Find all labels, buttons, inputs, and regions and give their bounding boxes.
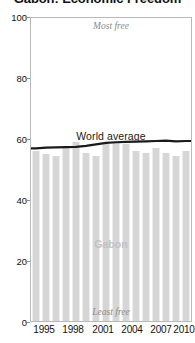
bar <box>112 142 119 321</box>
bar <box>152 148 159 321</box>
x-tick-label: 2007 <box>150 324 171 335</box>
bar <box>132 151 139 321</box>
y-axis: 100 80 60 40 20 0 <box>0 0 30 343</box>
x-tick-label: 2001 <box>92 324 113 335</box>
x-tick-label: 1995 <box>33 324 54 335</box>
most-free-annotation: Most free <box>31 21 191 31</box>
bar <box>32 151 39 321</box>
country-series-label: Gabon <box>31 238 191 250</box>
bar <box>122 144 129 321</box>
bars-layer <box>31 18 191 321</box>
least-free-annotation: Least free <box>31 307 191 317</box>
x-tick-label: 2004 <box>121 324 142 335</box>
bar <box>162 153 169 321</box>
plot-area: Most free Least free World average Gabon <box>30 17 192 322</box>
bar <box>72 142 79 321</box>
bar <box>182 151 189 321</box>
x-tick-label: 1998 <box>62 324 83 335</box>
bar <box>82 153 89 321</box>
x-axis: 1995 1998 2001 2004 2007 2010 <box>0 324 195 343</box>
bar <box>62 147 69 321</box>
y-tick-mark <box>25 322 30 323</box>
bar <box>142 153 149 321</box>
economic-freedom-chart: Gabon: Economic Freedom 100 80 60 40 20 … <box>0 0 195 343</box>
bar <box>102 144 109 321</box>
x-tick-label: 2010 <box>173 324 194 335</box>
world-average-label: World average <box>31 130 191 142</box>
